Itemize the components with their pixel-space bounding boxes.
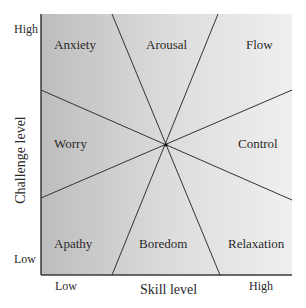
region-worry: Worry [54,136,87,152]
region-apathy: Apathy [54,236,92,252]
x-low-label: Low [55,279,77,294]
x-high-label: High [249,279,273,294]
region-flow: Flow [246,37,273,53]
region-boredom: Boredom [139,236,187,252]
region-relaxation: Relaxation [228,236,284,252]
y-axis-title: Challenge level [13,110,29,210]
y-low-label: Low [14,252,36,267]
center-point [164,143,167,146]
region-arousal: Arousal [146,37,187,53]
x-axis-title: Skill level [140,282,197,298]
region-control: Control [238,136,278,152]
y-high-label: High [14,22,38,37]
region-anxiety: Anxiety [54,37,96,53]
